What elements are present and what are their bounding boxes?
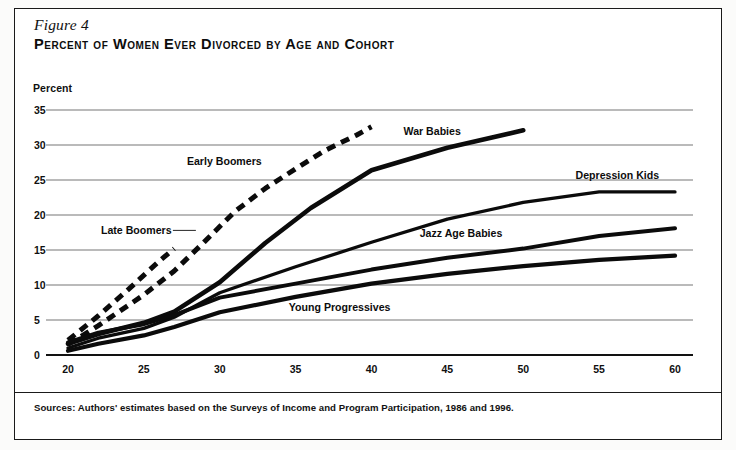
x-axis-tick-label: 25: [138, 363, 150, 375]
y-axis-tick-label: 0: [34, 349, 40, 361]
line-chart-plot: 05101520253035 202530354045505560 War Ba…: [0, 0, 736, 450]
y-axis-tick-label: 35: [34, 104, 46, 116]
y-axis-tick-label: 30: [34, 139, 46, 151]
series-label-jazz-age-babies: Jazz Age Babies: [420, 227, 503, 239]
series-label-young-progressives: Young Progressives: [289, 301, 391, 313]
y-axis-tick-labels: 05101520253035: [34, 104, 46, 361]
x-axis-tick-label: 35: [290, 363, 302, 375]
series-label-depression-kids: Depression Kids: [576, 169, 660, 181]
x-axis-tick-label: 45: [442, 363, 454, 375]
y-axis-tick-label: 10: [34, 279, 46, 291]
x-axis-tick-label: 40: [366, 363, 378, 375]
data-series-group: [68, 127, 675, 351]
x-axis-tick-label: 55: [593, 363, 605, 375]
source-divider: [15, 392, 721, 393]
x-axis-tick-label: 30: [214, 363, 226, 375]
y-axis-tick-label: 25: [34, 174, 46, 186]
series-label-late-boomers: Late Boomers: [101, 224, 172, 236]
x-axis-tick-labels: 202530354045505560: [62, 363, 681, 375]
x-axis-tick-label: 20: [62, 363, 74, 375]
figure-container: Figure 4 Percent of Women Ever Divorced …: [0, 0, 736, 450]
series-label-early-boomers: Early Boomers: [187, 155, 262, 167]
y-axis-tick-label: 5: [34, 314, 40, 326]
x-axis-tick-label: 50: [517, 363, 529, 375]
source-note: Sources: Authors' estimates based on the…: [34, 402, 694, 413]
y-axis-tick-label: 15: [34, 244, 46, 256]
y-axis-tick-label: 20: [34, 209, 46, 221]
series-label-war-babies: War Babies: [404, 125, 461, 137]
x-axis-tick-label: 60: [669, 363, 681, 375]
